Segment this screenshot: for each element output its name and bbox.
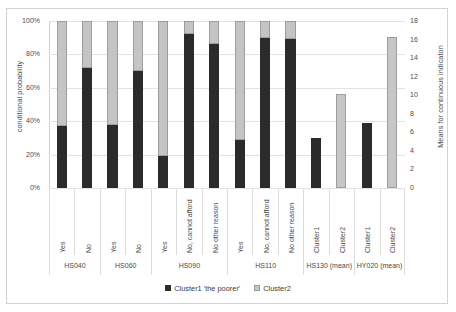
bar-hy020-mean--cluster1[interactable] — [362, 21, 372, 188]
x-tick-label: No — [135, 244, 142, 253]
bar-hy020-mean--cluster2[interactable] — [387, 21, 397, 188]
bar-segment-cluster1[interactable] — [260, 38, 270, 188]
y-tick-right-10: 10 — [410, 91, 426, 99]
bar-segment-cluster1[interactable] — [107, 125, 117, 188]
x-tick-label: Yes — [160, 242, 167, 253]
bar-segment-cluster2[interactable] — [184, 21, 194, 34]
x-axis-category-labels: YesNoYesNoYesNo, cannot affordNo other r… — [49, 189, 405, 255]
y-tick-right-16: 16 — [410, 36, 426, 44]
x-tick-cell: No other reason — [278, 189, 303, 255]
bar-hs130-mean--cluster2[interactable] — [336, 21, 346, 188]
bar-segment-cluster2[interactable] — [107, 21, 117, 125]
x-tick-label: No, cannot afford — [262, 199, 269, 253]
y-tick-right-12: 12 — [410, 73, 426, 81]
x-tick-label: No — [84, 244, 91, 253]
x-group-cell-hs040: HS040 — [49, 255, 100, 275]
x-tick-label: No other reason — [211, 203, 218, 253]
bar-hs040-no[interactable] — [82, 21, 92, 188]
bar-segment-cluster1[interactable] — [209, 44, 219, 188]
bar-segment-cluster2[interactable] — [260, 21, 270, 38]
bar-hs090-no-cannot-afford[interactable] — [184, 21, 194, 188]
x-tick-label: Cluster2 — [389, 227, 396, 253]
x-tick-cell: Yes — [49, 189, 74, 255]
y-axis-right-title: Means for continuous indicaton — [436, 37, 445, 157]
bar-segment-cluster1[interactable] — [57, 126, 67, 188]
x-group-cell-hs060: HS060 — [100, 255, 151, 275]
gridline — [49, 155, 405, 156]
x-tick-cell: No, cannot afford — [252, 189, 277, 255]
x-tick-label: Yes — [110, 242, 117, 253]
y-tick-left-20%: 20% — [14, 151, 40, 159]
legend-swatch-icon — [254, 285, 260, 291]
x-group-cell-hs090: HS090 — [151, 255, 227, 275]
x-group-label: HS060 — [115, 262, 136, 269]
bar-hs060-yes[interactable] — [107, 21, 117, 188]
y-tick-right-8: 8 — [410, 110, 426, 118]
x-tick-label: Cluster2 — [338, 227, 345, 253]
bar-segment-cluster1[interactable] — [133, 71, 143, 188]
x-tick-cell: No — [125, 189, 150, 255]
x-group-label: HS040 — [64, 262, 85, 269]
y-tick-left-80%: 80% — [14, 50, 40, 58]
bar-segment-cluster2[interactable] — [387, 37, 397, 188]
bar-hs040-yes[interactable] — [57, 21, 67, 188]
bar-segment-cluster2[interactable] — [285, 21, 295, 39]
gridline — [49, 21, 405, 22]
bar-segment-cluster1[interactable] — [285, 39, 295, 188]
x-tick-cell: Cluster1 — [354, 189, 379, 255]
chart-legend: Cluster1 'the poorer'Cluster2 — [0, 281, 456, 295]
y-tick-right-0: 0 — [410, 184, 426, 192]
x-tick-cell: Cluster2 — [329, 189, 354, 255]
y-tick-left-0%: 0% — [14, 184, 40, 192]
bar-hs110-yes[interactable] — [235, 21, 245, 188]
y-tick-right-4: 4 — [410, 147, 426, 155]
x-tick-label: Cluster1 — [364, 227, 371, 253]
bar-segment-cluster1[interactable] — [158, 156, 168, 188]
bar-segment-cluster1[interactable] — [235, 140, 245, 188]
plot-area — [49, 21, 405, 188]
bar-hs130-mean--cluster1[interactable] — [311, 21, 321, 188]
bar-segment-cluster2[interactable] — [82, 21, 92, 68]
x-tick-label: Yes — [237, 242, 244, 253]
x-tick-cell: No, cannot afford — [176, 189, 201, 255]
bar-segment-cluster1[interactable] — [311, 138, 321, 188]
legend-swatch-icon — [165, 285, 171, 291]
x-group-cell-hy020-mean-: HY020 (mean) — [354, 255, 405, 275]
x-tick-label: No, cannot afford — [186, 199, 193, 253]
x-tick-cell: Cluster2 — [380, 189, 405, 255]
x-tick-cell: No — [74, 189, 99, 255]
x-tick-cell: Yes — [227, 189, 252, 255]
bar-segment-cluster2[interactable] — [336, 94, 346, 188]
bar-segment-cluster2[interactable] — [209, 21, 219, 44]
x-group-label: HY020 (mean) — [357, 262, 403, 269]
legend-item-cluster1[interactable]: Cluster1 'the poorer' — [165, 284, 240, 293]
bar-segment-cluster2[interactable] — [133, 21, 143, 71]
chart-container: conditional probability Means for contin… — [0, 0, 456, 312]
x-group-label: HS130 (mean) — [306, 262, 352, 269]
gridline — [49, 88, 405, 89]
bar-segment-cluster1[interactable] — [82, 68, 92, 188]
x-tick-cell: Yes — [100, 189, 125, 255]
bar-hs110-no-cannot-afford[interactable] — [260, 21, 270, 188]
x-tick-label: Cluster1 — [313, 227, 320, 253]
x-tick-label: Yes — [59, 242, 66, 253]
y-tick-left-40%: 40% — [14, 117, 40, 125]
bar-hs060-no[interactable] — [133, 21, 143, 188]
x-axis-group-labels: HS040HS060HS090HS110HS130 (mean)HY020 (m… — [49, 255, 405, 275]
y-tick-right-14: 14 — [410, 54, 426, 62]
bar-segment-cluster1[interactable] — [362, 123, 372, 188]
bar-segment-cluster1[interactable] — [184, 34, 194, 188]
x-tick-cell: No other reason — [202, 189, 227, 255]
bar-hs090-no-other-reason[interactable] — [209, 21, 219, 188]
bar-hs110-no-other-reason[interactable] — [285, 21, 295, 188]
y-tick-left-60%: 60% — [14, 84, 40, 92]
bar-segment-cluster2[interactable] — [158, 21, 168, 156]
x-group-label: HS110 — [255, 262, 276, 269]
bar-segment-cluster2[interactable] — [235, 21, 245, 140]
gridline — [49, 121, 405, 122]
legend-item-cluster2[interactable]: Cluster2 — [254, 284, 291, 293]
y-axis-line — [49, 21, 50, 188]
y-tick-right-18: 18 — [410, 17, 426, 25]
bar-segment-cluster2[interactable] — [57, 21, 67, 126]
bar-hs090-yes[interactable] — [158, 21, 168, 188]
